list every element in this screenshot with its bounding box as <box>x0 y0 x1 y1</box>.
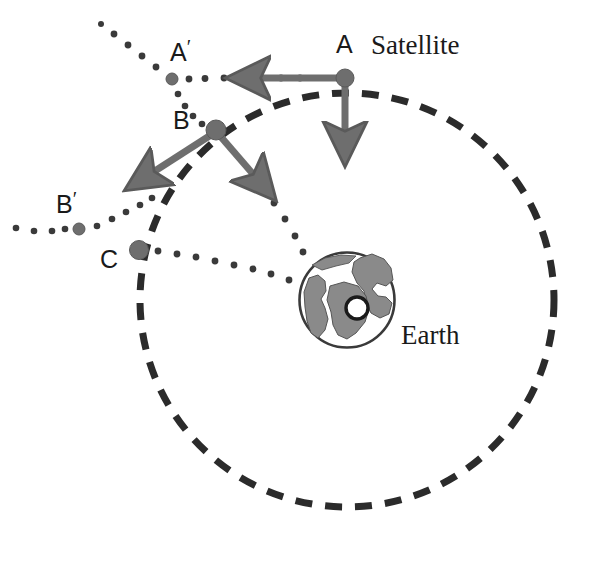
point-a-prime-mark: ′ <box>187 36 191 58</box>
point-b-marker <box>206 120 226 140</box>
earth-globe <box>300 253 395 348</box>
vector-gravity-at-b <box>221 137 272 196</box>
point-b-label: B <box>173 108 190 133</box>
satellite-orbit-diagram: Satellite Earth A A′ B B′ C <box>0 0 611 565</box>
dotted-tangent-path-a <box>98 21 303 82</box>
dotted-path-c-to-earth <box>155 248 293 284</box>
point-a-prime-label: A′ <box>170 40 191 65</box>
point-a-prime-letter: A <box>170 38 187 66</box>
diagram-canvas <box>0 0 611 565</box>
satellite-label: Satellite <box>371 32 459 59</box>
earth-center-ring <box>346 297 368 319</box>
dotted-path-b-to-earth <box>259 185 307 256</box>
point-a-prime-marker <box>166 73 178 85</box>
point-b-prime-label: B′ <box>56 192 77 217</box>
point-c-marker <box>130 241 149 260</box>
point-b-prime-mark: ′ <box>73 188 77 210</box>
point-a-label: A <box>336 32 353 57</box>
earth-label: Earth <box>401 322 459 349</box>
point-b-prime-marker <box>73 223 85 235</box>
point-a-marker <box>336 69 354 87</box>
point-b-prime-letter: B <box>56 190 73 218</box>
vector-velocity-at-b <box>130 133 214 187</box>
point-c-label: C <box>100 247 118 272</box>
